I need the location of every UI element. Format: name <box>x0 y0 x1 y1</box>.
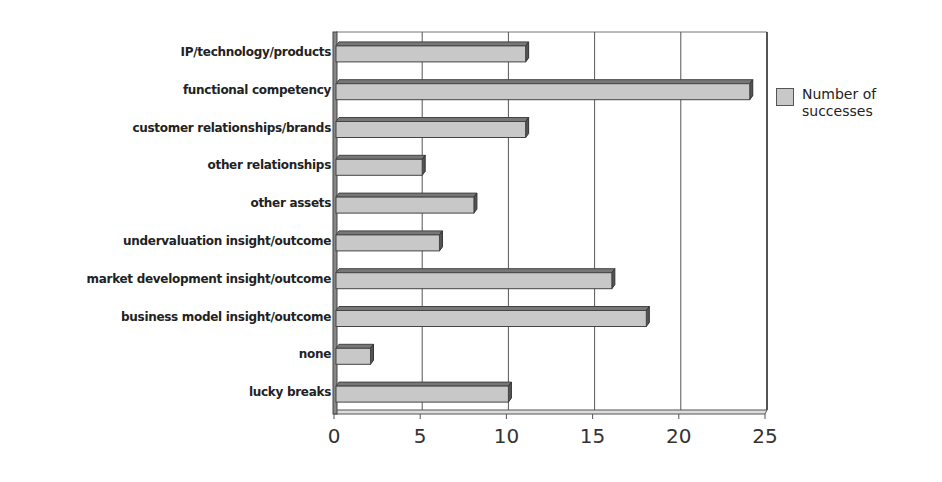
bar-top-face <box>336 118 529 122</box>
legend-swatch <box>776 88 794 106</box>
legend: Number of successes <box>776 86 912 120</box>
x-tick-label: 10 <box>494 424 519 448</box>
category-label: business model insight/outcome <box>121 310 331 324</box>
category-label: other relationships <box>208 158 332 172</box>
bar-top-face <box>336 307 649 311</box>
category-label: IP/technology/products <box>181 45 331 59</box>
bar-top-face <box>336 231 442 235</box>
bar-top-face <box>336 80 753 84</box>
category-label: undervaluation insight/outcome <box>123 234 331 248</box>
category-label: lucky breaks <box>249 385 331 399</box>
bar <box>336 311 646 327</box>
x-tick-label: 15 <box>580 424 605 448</box>
bar <box>336 235 439 251</box>
bar-top-face <box>336 382 511 386</box>
bar <box>336 197 474 213</box>
category-label: other assets <box>250 196 331 210</box>
bar-top-face <box>336 344 373 348</box>
x-tick-label: 25 <box>752 424 777 448</box>
axis-floor <box>334 410 767 414</box>
bar-top-face <box>336 42 529 46</box>
x-tick-label: 20 <box>666 424 691 448</box>
bar <box>336 273 612 289</box>
bar <box>336 159 422 175</box>
bar <box>336 46 526 62</box>
bar <box>336 84 750 100</box>
x-tick-label: 5 <box>414 424 427 448</box>
x-tick-label: 0 <box>328 424 341 448</box>
bar <box>336 348 370 364</box>
bar-top-face <box>336 193 477 197</box>
bar-top-face <box>336 155 425 159</box>
bar <box>336 386 508 402</box>
category-label: customer relationships/brands <box>132 121 331 135</box>
bar-top-face <box>336 269 615 273</box>
category-label: none <box>299 347 331 361</box>
category-label: functional competency <box>183 83 331 97</box>
legend-label: Number of successes <box>802 86 912 120</box>
category-label: market development insight/outcome <box>87 272 331 286</box>
bar <box>336 122 526 138</box>
